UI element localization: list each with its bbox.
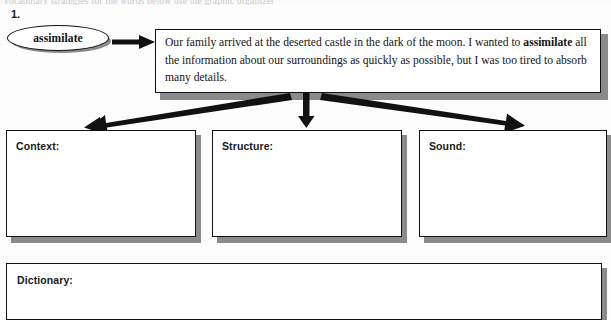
arrow-right-icon [112, 34, 156, 50]
sentence-bold-word: assimilate [523, 36, 572, 49]
oval-outline: assimilate [7, 25, 109, 51]
item-number: 1. [11, 8, 20, 20]
vocabulary-word-label: assimilate [33, 32, 83, 44]
sound-box-label: Sound: [429, 140, 466, 152]
structure-box-label: Structure: [222, 140, 273, 152]
context-box[interactable]: Context: [6, 130, 196, 237]
sentence-box: Our family arrived at the deserted castl… [155, 29, 601, 93]
clipped-header-text: vocabulary strategies for the words belo… [4, 0, 604, 5]
sound-box[interactable]: Sound: [419, 130, 607, 237]
sentence-text: Our family arrived at the deserted castl… [165, 34, 592, 87]
worksheet-page: vocabulary strategies for the words belo… [0, 0, 611, 320]
dictionary-box[interactable]: Dictionary: [6, 263, 602, 320]
arrow-down-right-icon [320, 93, 525, 133]
fan-out-arrows [0, 90, 611, 135]
arrow-down-left-icon [84, 93, 292, 135]
arrow-down-icon [298, 92, 315, 128]
structure-box[interactable]: Structure: [212, 130, 402, 237]
sentence-part-before: Our family arrived at the deserted castl… [165, 36, 523, 49]
dictionary-box-label: Dictionary: [17, 274, 73, 286]
vocabulary-word-oval: assimilate [7, 25, 115, 55]
context-box-label: Context: [16, 140, 59, 152]
